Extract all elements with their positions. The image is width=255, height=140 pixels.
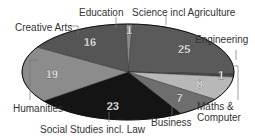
slice-value: 16 xyxy=(84,36,96,48)
slice-value: 7 xyxy=(177,92,183,104)
label-education: Education xyxy=(79,7,123,18)
label-maths-line1: Maths & xyxy=(197,101,241,112)
label-social-studies: Social Studies incl. Law xyxy=(40,124,145,135)
label-humanities: Humanities xyxy=(13,103,63,114)
slice-value: 25 xyxy=(178,43,190,55)
slice-value: 1 xyxy=(126,24,132,36)
label-science: Science incl Agriculture xyxy=(132,7,235,18)
label-maths-line2: Computer xyxy=(197,112,241,123)
slice-value: 1 xyxy=(218,69,224,81)
label-business: Business xyxy=(151,117,192,128)
slice-value: 23 xyxy=(107,100,119,112)
slice-value: 19 xyxy=(46,68,58,80)
label-creative-arts: Creative Arts xyxy=(15,22,72,33)
slice-value: 8 xyxy=(196,78,202,90)
label-maths-computer: Maths & Computer xyxy=(197,101,241,123)
label-engineering: Engineering xyxy=(195,34,248,45)
